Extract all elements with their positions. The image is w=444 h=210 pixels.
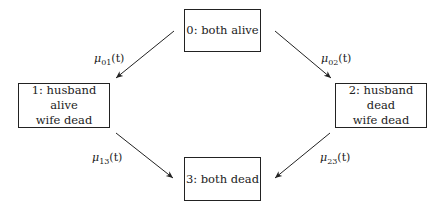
state-label: 3: both dead — [186, 172, 259, 187]
state-label-line1: 2: husband dead — [336, 83, 426, 113]
arrow-0-to-1 — [116, 31, 174, 78]
state-3-both-dead: 3: both dead — [184, 157, 261, 201]
arrow-1-to-3 — [116, 133, 173, 178]
state-0-both-alive: 0: both alive — [184, 9, 261, 52]
state-label: 0: both alive — [186, 23, 258, 38]
state-label-line2: wife dead — [36, 113, 93, 128]
state-label-line1: 1: husband alive — [19, 83, 109, 113]
state-2-husband-dead-wife-dead: 2: husband dead wife dead — [335, 83, 427, 128]
state-1-husband-alive-wife-dead: 1: husband alive wife dead — [18, 83, 110, 128]
rate-label-mu23: μ23(t) — [320, 151, 350, 166]
rate-label-mu01: μ01(t) — [94, 52, 124, 67]
rate-label-mu13: μ13(t) — [92, 151, 122, 166]
state-label-line2: wife dead — [353, 113, 410, 128]
rate-label-mu02: μ02(t) — [321, 52, 351, 67]
